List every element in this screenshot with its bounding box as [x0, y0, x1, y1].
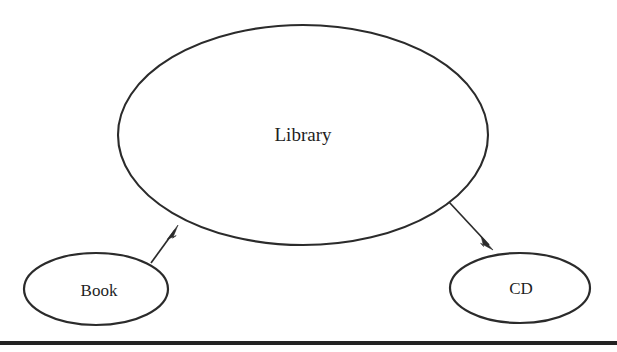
cd-label: CD [509, 279, 533, 298]
edge-book-to-library[interactable] [151, 225, 178, 263]
library-label: Library [275, 124, 332, 145]
node-cd[interactable]: CD [450, 253, 590, 323]
diagram-canvas: Library Book CD [0, 0, 617, 352]
library-to-cd-arrowhead-icon [481, 236, 493, 250]
diagram-svg: Library Book CD [0, 0, 617, 352]
node-library[interactable]: Library [118, 25, 488, 245]
book-label: Book [81, 281, 118, 300]
edge-library-to-cd[interactable] [449, 202, 493, 250]
book-to-library-arrowhead-icon [167, 225, 178, 239]
horizontal-rule [0, 341, 617, 345]
node-book[interactable]: Book [24, 253, 168, 325]
